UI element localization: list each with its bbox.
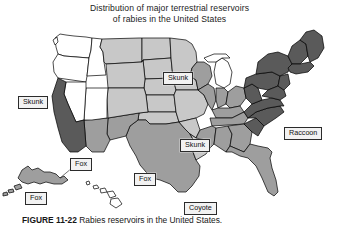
state-kansas: [146, 95, 176, 112]
map-label-fox-alaska[interactable]: Fox: [25, 192, 47, 205]
state-missouri: [174, 90, 208, 122]
us-map-svg: .st { stroke:#000; stroke-width:0.7; str…: [0, 0, 339, 216]
map-label-fox-texas[interactable]: Fox: [134, 173, 156, 186]
state-ohio: [226, 86, 246, 108]
map-label-skunk-west[interactable]: Skunk: [18, 96, 48, 109]
figure-caption-number: FIGURE 11-22: [22, 216, 77, 225]
map-label-skunk-north[interactable]: Skunk: [163, 72, 193, 85]
state-michigan-lower: [214, 58, 232, 88]
state-utah: [84, 88, 108, 120]
state-massachusetts-connecticut-rhode-island: [288, 62, 314, 74]
state-new-jersey: [278, 74, 290, 90]
state-washington: [55, 34, 92, 58]
map-label-fox-southwest[interactable]: Fox: [70, 158, 92, 171]
state-indiana: [216, 88, 228, 108]
state-wyoming: [106, 60, 145, 88]
state-montana: [100, 38, 142, 64]
map-label-coyote-texas[interactable]: Coyote: [184, 202, 217, 215]
us-map: .st { stroke:#000; stroke-width:0.7; str…: [0, 0, 339, 216]
state-arizona: [84, 118, 110, 152]
figure-rabies-reservoir-map: Distribution of major terrestrial reserv…: [0, 0, 339, 225]
figure-caption-text: Rabies reservoirs in the United States.: [79, 216, 222, 225]
state-florida: [226, 144, 278, 196]
hawaii-inset: [86, 181, 122, 208]
state-oregon: [53, 54, 89, 82]
state-new-york: [256, 52, 292, 76]
figure-caption: FIGURE 11-22 Rabies reservoirs in the Un…: [22, 216, 332, 225]
map-label-raccoon-east[interactable]: Raccoon: [284, 127, 322, 140]
map-label-skunk-central[interactable]: Skunk: [180, 139, 210, 152]
